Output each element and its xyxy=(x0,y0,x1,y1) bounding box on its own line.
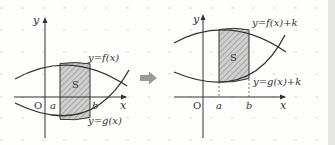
page-edge xyxy=(328,0,335,145)
right-graph: y x O a b S y=f(x)+k y=g(x)+k xyxy=(174,13,301,138)
origin-label: O xyxy=(193,100,201,111)
y-axis-arrow-icon xyxy=(201,14,206,20)
transform-arrow-icon xyxy=(140,72,157,85)
region-label: S xyxy=(230,52,237,63)
b-label: b xyxy=(246,100,252,111)
y-axis-arrow-icon xyxy=(43,17,48,23)
b-label: b xyxy=(92,100,98,111)
g-plus-k-label: y=g(x)+k xyxy=(252,76,301,87)
left-graph: y x O a b S y=f(x) y=g(x) xyxy=(14,14,129,138)
y-axis-label: y xyxy=(192,13,200,26)
a-label: a xyxy=(216,100,222,111)
x-axis-label: x xyxy=(280,99,287,112)
area-translation-diagram: y x O a b S y=f(x) y=g(x) y x O a b S xyxy=(0,0,335,145)
origin-label: O xyxy=(34,100,42,111)
y-axis-label: y xyxy=(32,14,40,27)
region-label: S xyxy=(72,79,79,90)
f-label: y=f(x) xyxy=(87,52,119,63)
g-label: y=g(x) xyxy=(87,115,122,126)
a-label: a xyxy=(50,100,56,111)
f-plus-k-label: y=f(x)+k xyxy=(251,17,298,28)
x-axis-label: x xyxy=(120,99,127,112)
